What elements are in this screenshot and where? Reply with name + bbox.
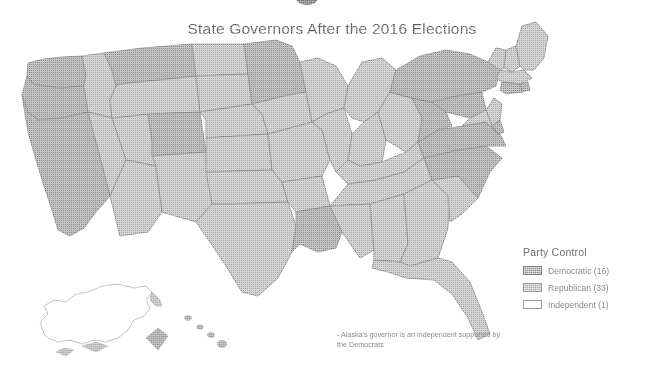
legend-swatch-republican-icon bbox=[523, 283, 542, 292]
state-GA bbox=[400, 180, 450, 266]
state-HI-bigisland bbox=[217, 341, 226, 348]
state-HI-kauai bbox=[185, 316, 192, 321]
state-HI-inset bbox=[185, 316, 227, 348]
state-ME bbox=[516, 22, 548, 70]
state-AK-aleutians-a bbox=[56, 348, 74, 356]
state-HI-oahu bbox=[197, 325, 203, 329]
state-OK bbox=[206, 170, 288, 204]
state-WA bbox=[27, 56, 86, 88]
legend-item-democratic: Democratic (16) bbox=[523, 263, 663, 278]
state-FL bbox=[372, 258, 490, 340]
state-AK bbox=[40, 284, 152, 344]
state-AK-panhandle bbox=[150, 292, 162, 306]
legend-label-republican: Republican (33) bbox=[548, 283, 609, 293]
state-AK-inset bbox=[40, 284, 168, 356]
state-ND bbox=[192, 44, 248, 76]
map-footnote: - Alaska's governor is an independent su… bbox=[337, 330, 512, 349]
state-TX bbox=[196, 202, 296, 296]
us-choropleth-map bbox=[0, 0, 664, 388]
state-AL bbox=[370, 194, 408, 262]
state-MA bbox=[496, 70, 532, 84]
legend-label-independent: Independent (1) bbox=[548, 300, 609, 310]
map-figure: State Governors After the 2016 Elections bbox=[0, 0, 664, 388]
legend-label-democratic: Democratic (16) bbox=[548, 266, 609, 276]
legend-swatch-independent-icon bbox=[523, 300, 542, 309]
state-AK-aleutians-b bbox=[82, 342, 108, 352]
legend-title: Party Control bbox=[523, 246, 663, 258]
map-legend: Party Control Democratic (16) Republican… bbox=[523, 246, 663, 314]
state-KS bbox=[206, 134, 272, 172]
legend-swatch-democratic-icon bbox=[523, 266, 542, 275]
legend-item-independent: Independent (1) bbox=[523, 297, 663, 312]
state-NY bbox=[390, 50, 500, 102]
state-HI-maui bbox=[207, 333, 214, 338]
state-AK-alexander-arch bbox=[146, 328, 168, 350]
state-CT bbox=[500, 82, 522, 94]
legend-item-republican: Republican (33) bbox=[523, 280, 663, 295]
state-CO bbox=[148, 112, 206, 156]
